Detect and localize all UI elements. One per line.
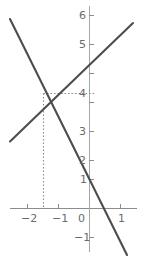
y-tick-label-3: 3 xyxy=(79,126,86,137)
y-tick-label-5: 5 xyxy=(79,39,86,50)
y-tick-label-minus-1: −1 xyxy=(74,232,90,243)
y-tick-label-6: 6 xyxy=(79,10,86,21)
x-tick-label-minus-2: −2 xyxy=(21,213,37,224)
x-tick-label-minus-1: −1 xyxy=(52,213,68,224)
plot-canvas xyxy=(0,0,141,274)
coordinate-plot: 6 5 4 3 2 1 −1 −2 −1 0 1 xyxy=(0,0,141,274)
y-tick-label-2: 2 xyxy=(79,155,86,166)
x-tick-label-1: 1 xyxy=(118,213,125,224)
x-axis-ticks xyxy=(28,204,121,208)
line-series-1 xyxy=(10,23,133,142)
y-tick-label-1: 1 xyxy=(80,174,87,185)
x-tick-label-0: 0 xyxy=(78,213,85,224)
y-tick-label-4: 4 xyxy=(79,88,86,99)
